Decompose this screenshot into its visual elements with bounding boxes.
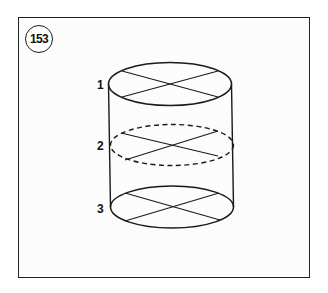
level-label-3: 3 xyxy=(97,203,104,215)
level-3-cross-section xyxy=(111,186,234,228)
cylinder-diagram xyxy=(0,0,328,293)
level-label-2: 2 xyxy=(97,140,104,152)
level-1-cross-section xyxy=(109,63,232,106)
level-label-1: 1 xyxy=(97,79,104,91)
level-2-cross-section xyxy=(111,125,234,166)
